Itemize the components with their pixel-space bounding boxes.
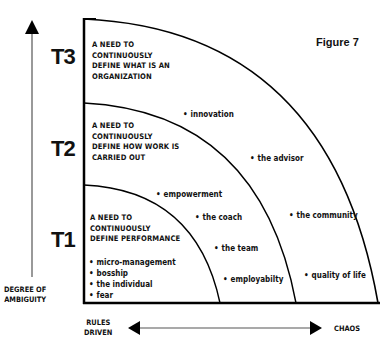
tier-label-t2: T2 [51,136,75,162]
list-item-micro-management: micro-management [89,258,176,267]
list-item-bosship: bosship [89,269,128,278]
item-the-coach: the coach [195,213,242,222]
tier-description-t2: A NEED TO CONTINUOUSLY DEFINE HOW WORK I… [92,121,179,163]
tier-description-t3: A NEED TO CONTINUOUSLY DEFINE WHAT IS AN… [92,40,170,82]
x-axis-right-arrowhead [310,321,322,335]
item-quality-of-life: quality of life [304,271,366,280]
item-the-community: the community [289,211,358,220]
x-axis-right-label: CHAOS [334,324,360,334]
tier-label-t1: T1 [51,227,75,253]
y-axis-label: DEGREE OF AMBIGUITY [4,285,46,305]
item-the-advisor: the advisor [250,154,304,163]
item-the-team: the team [214,244,258,253]
y-axis-arrowhead [25,20,39,34]
figure-label: Figure 7 [316,36,359,48]
x-axis-left-label: RULES DRIVEN [84,318,112,338]
x-axis-left-arrowhead [128,321,140,335]
tier-label-t3: T3 [51,44,75,70]
list-item-fear: fear [89,291,113,300]
list-item-the-individual: the individual [89,280,153,289]
item-employability: employabilty [223,275,283,284]
item-innovation: innovation [183,110,234,119]
item-empowerment: empowerment [156,190,222,199]
tier-description-t1: A NEED TO CONTINUOUSLY DEFINE PERFORMANC… [90,213,180,245]
